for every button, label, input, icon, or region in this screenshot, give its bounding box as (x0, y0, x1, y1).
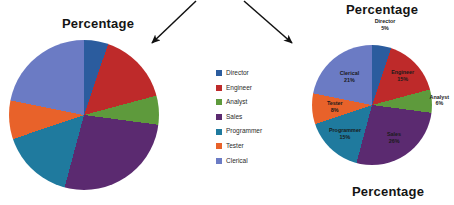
pie-data-label-value: 6% (430, 100, 449, 107)
pie-data-label: Clerical21% (340, 70, 359, 84)
legend-item: Clerical (216, 154, 286, 169)
pie-data-label-name: Programmer (329, 127, 361, 134)
legend-swatch-icon (216, 70, 222, 76)
legend-swatch-icon (216, 129, 222, 135)
legend-item-label: Director (226, 70, 249, 77)
pie-chart-left (9, 40, 159, 190)
legend-item-label: Programmer (226, 128, 262, 135)
legend-swatch-icon (216, 158, 222, 164)
legend-item-label: Clerical (226, 158, 248, 165)
slide-canvas: Percentage Percentage Percentage Directo… (0, 0, 454, 205)
page-title-right-chart: Percentage (346, 2, 418, 17)
pie-data-label: Sales26% (387, 131, 401, 145)
legend-swatch-icon (216, 114, 222, 120)
legend-item: Programmer (216, 124, 286, 139)
legend-item-label: Sales (226, 114, 242, 121)
arrow-down-right-icon (244, 1, 292, 43)
pie-data-label-name: Analyst (430, 94, 449, 101)
legend-swatch-icon (216, 85, 222, 91)
legend-swatch-icon (216, 143, 222, 149)
pie-data-label-value: 5% (375, 25, 396, 32)
pie-data-label: Tester8% (327, 100, 343, 114)
legend-item-label: Analyst (226, 99, 247, 106)
pie-data-label-name: Sales (387, 131, 401, 138)
pie-data-label-name: Clerical (340, 70, 359, 77)
pie-data-label-value: 15% (391, 76, 414, 83)
pie-data-label-name: Engineer (391, 69, 414, 76)
legend-item: Analyst (216, 95, 286, 110)
chart-legend: DirectorEngineerAnalystSalesProgrammerTe… (216, 66, 286, 168)
legend-item-label: Tester (226, 143, 244, 150)
pie-data-label: Programmer15% (329, 127, 361, 141)
pie-data-label-name: Director (375, 18, 396, 25)
arrow-down-left-icon (152, 1, 196, 43)
pie-data-label: Engineer15% (391, 69, 414, 83)
pie-data-label: Director5% (375, 18, 396, 32)
pie-data-label-value: 8% (327, 107, 343, 114)
legend-item: Engineer (216, 81, 286, 96)
pie-data-label-name: Tester (327, 100, 343, 107)
legend-item: Sales (216, 110, 286, 125)
pie-data-label-value: 26% (387, 138, 401, 145)
legend-swatch-icon (216, 99, 222, 105)
pie-data-label-value: 15% (329, 134, 361, 141)
page-title-bottom-caption: Percentage (352, 184, 424, 199)
pie-data-label: Analyst6% (430, 94, 449, 108)
legend-item-label: Engineer (226, 85, 252, 92)
page-title-left-chart: Percentage (62, 16, 134, 31)
pie-data-label-value: 21% (340, 77, 359, 84)
legend-item: Tester (216, 139, 286, 154)
legend-item: Director (216, 66, 286, 81)
